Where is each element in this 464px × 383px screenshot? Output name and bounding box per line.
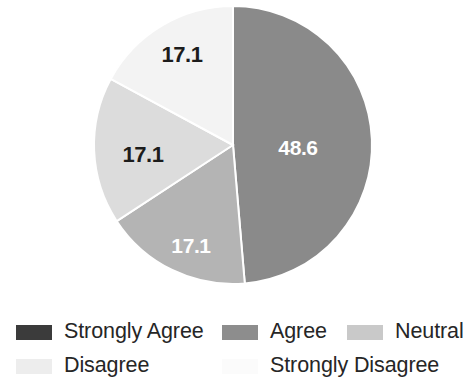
legend-swatch-strongly-disagree-icon	[222, 359, 258, 374]
legend-row-top: Strongly Agree Agree Neutral	[0, 316, 458, 348]
legend-label-neutral: Neutral	[395, 321, 464, 343]
legend-item-strongly-disagree[interactable]: Strongly Disagree	[222, 350, 439, 382]
legend-item-neutral[interactable]: Neutral	[347, 316, 464, 348]
legend-item-agree[interactable]: Agree	[222, 316, 327, 348]
legend-item-strongly-agree[interactable]: Strongly Agree	[16, 316, 204, 348]
legend-label-strongly-disagree: Strongly Disagree	[270, 355, 439, 377]
chart-legend: Strongly Agree Agree Neutral Disagree St…	[0, 312, 458, 383]
legend-swatch-agree-icon	[222, 325, 258, 340]
legend-label-strongly-agree: Strongly Agree	[64, 321, 204, 343]
pie-plot-area: 48.6 17.1 17.1 17.1	[0, 0, 458, 300]
legend-label-agree: Agree	[270, 321, 327, 343]
pie-slice-group	[94, 6, 372, 284]
pie-slice-strongly-agree	[233, 6, 372, 284]
legend-swatch-disagree-icon	[16, 359, 52, 374]
legend-row-bottom: Disagree Strongly Disagree	[0, 350, 458, 382]
legend-label-disagree: Disagree	[64, 355, 149, 377]
pie-svg	[0, 0, 458, 300]
legend-swatch-strongly-agree-icon	[16, 325, 52, 340]
legend-swatch-neutral-icon	[347, 325, 383, 340]
legend-item-disagree[interactable]: Disagree	[16, 350, 149, 382]
